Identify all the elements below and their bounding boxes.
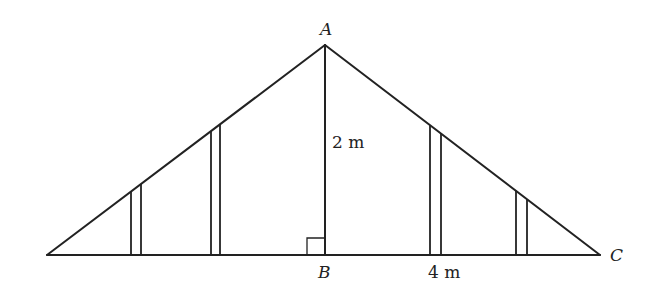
right-angle-marker (307, 238, 325, 255)
struts-group (131, 124, 527, 255)
height-measurement: 2 m (332, 132, 364, 152)
base-measurement: 4 m (428, 262, 460, 282)
label-A: A (318, 19, 332, 39)
label-B: B (317, 262, 331, 282)
right-slope (325, 45, 600, 255)
left-slope (47, 45, 325, 255)
truss-diagram: A B C 2 m 4 m (0, 0, 652, 299)
label-C: C (610, 245, 623, 265)
